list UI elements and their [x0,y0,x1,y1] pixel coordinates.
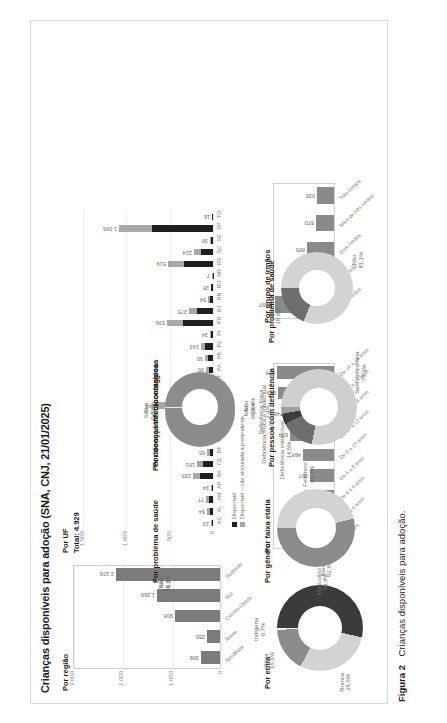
bar-uf-disponivel [210,237,212,243]
slice-name: Preta [262,652,269,669]
cat-label-uf: PR [216,316,222,324]
panel-genero: Por gêneroFeminino46,1%Masculino53,9% [263,473,381,583]
bar-value-label: 214 [183,249,192,255]
donut-hole [298,606,342,650]
panel-title-genero: Por gênero [263,473,272,583]
bar-uf-disponivel [200,249,212,255]
bar-value-label: 275 [177,308,186,314]
bar-value-label: 7 [207,273,210,279]
slice-pct: 14,5% [286,421,293,479]
slice-pct: 99,4% [249,397,256,414]
bar-value-label: 38 [201,237,207,243]
panel-doenca-main: Por doença infectocontagiosaNão99,4%Sim0… [151,347,162,467]
legend-item-disponivel: Disponível [231,492,237,526]
cat-label-uf: TO [216,210,222,217]
bar-uf-disponivel [209,508,212,514]
bar-uf-disponivel [211,284,213,290]
legend-label: Disponível [231,492,237,518]
bar-uf-disponivel [200,472,213,478]
cat-label-uf: AC [216,516,222,524]
rotated-figure-canvas: Crianças disponíveis para adoção (SNA, C… [24,12,424,712]
donut-ring [277,489,355,567]
bar-value-label: 54 [200,296,206,302]
bar-regiao [207,630,220,643]
legend-swatch-icon [240,522,245,527]
bar-value-label: 77 [198,496,204,502]
bar-value-label: 235 [181,473,190,479]
bar-value-label: 2.109 [99,571,113,577]
cat-label-uf: RN [216,292,222,300]
panel-deficiencia-main: Por pessoa com deficiênciaSem deficiênci… [267,347,278,467]
gridline [126,211,127,529]
bar-value-label: 23 [202,520,208,526]
donut-deficiencia: Sem deficiência78,3%Deficiência intelect… [281,369,357,445]
donut-slice-label: Não81,1% [351,251,365,268]
legend-swatch-icon [232,522,237,527]
bar-uf-disponivel [211,519,212,525]
cat-label-uf: SE [216,234,222,241]
bar-uf-disponivel [211,331,213,337]
slice-name: Sim [158,574,165,591]
axis-tick-uf: 1.000 [122,531,128,555]
axis-tick-uf: 1.500 [79,531,85,555]
bar-irmaos [317,187,334,203]
slice-pct: 0,6% [150,401,157,415]
cat-label-uf: PI [216,330,222,335]
slice-pct: 18,9% [165,574,172,591]
cat-label-uf: AL [216,505,222,512]
bar-regiao [200,651,219,664]
donut-hole [300,388,338,426]
donut-slice-label: Indígena0,7% [253,617,267,640]
donut-slice-label: Branca28,6% [338,672,352,691]
slice-pct: 53,9% [322,568,329,595]
donut-ring [277,585,363,671]
bar-value-label: 536 [155,320,164,326]
axis-tick-regiao: 3.000 [69,671,75,693]
chart-regiao: 3862559081.2692.109 [73,565,221,669]
slice-name: Sim [143,401,150,415]
cat-label-uf: RS [216,257,222,265]
axis-tick-uf: 0 [209,531,215,555]
slice-name: Branca [338,672,345,691]
bar-uf-disponivel [209,296,212,302]
bar-uf-disponivel [197,307,213,313]
bar-uf-disponivel [212,213,213,219]
slice-name: Deficiência física [258,389,265,434]
cat-label-regiao: Sudeste [224,561,243,579]
donut-slice-label: Sim0,6% [143,401,157,415]
gridline [222,566,223,668]
panel-title-uf: Por UF [61,205,70,553]
bar-faixa [303,448,334,460]
bar-regiao [175,609,220,622]
panel-title-saude: Por problema de saúde [267,233,276,343]
donut-slice-label: Sim18,9% [268,307,282,324]
bar-uf-disponivel [183,260,212,266]
donut-ring [281,252,353,324]
donut-etnia: Parda52,8%Branca28,6%Preta16,6%Indígena0… [277,585,363,671]
page-title: Crianças disponíveis para adoção (SNA, C… [39,403,51,693]
donut-hole [182,389,218,425]
uf-total-label: Total: 4.929 [72,205,81,553]
bar-value-label: 1.086 [102,226,116,232]
donut-slice-label: Sim18,9% [158,574,172,591]
slice-pct: 2,9% [265,389,272,434]
slice-pct: 28,6% [345,672,352,691]
cat-label-regiao: Nordeste [224,643,245,663]
bar-value-label: 908 [163,613,172,619]
cat-label-uf: SC [216,245,222,253]
axis-tick-regiao: 1.000 [167,671,173,693]
bar-uf-disponivel [205,343,213,349]
slice-pct: 18,9% [275,307,282,324]
donut-slice-label: Deficiência física2,9% [258,389,272,434]
bar-value-label: 16 [203,214,209,220]
slice-name: Indígena [253,617,260,640]
panel-saude-main: Por problema de saúdeNão81,1%Sim18,9% [267,233,278,343]
cat-label-regiao: Sul [224,590,234,600]
bar-irmaos [316,214,334,230]
cat-label-uf: AM [216,492,222,500]
bar-value-label: 519 [156,261,165,267]
slice-pct: 46,1% [309,462,316,487]
donut-doenca: Não99,4%Sim0,6% [165,372,235,442]
axis-tick-uf: 500 [165,531,171,555]
bar-value-label: 570 [305,220,314,226]
